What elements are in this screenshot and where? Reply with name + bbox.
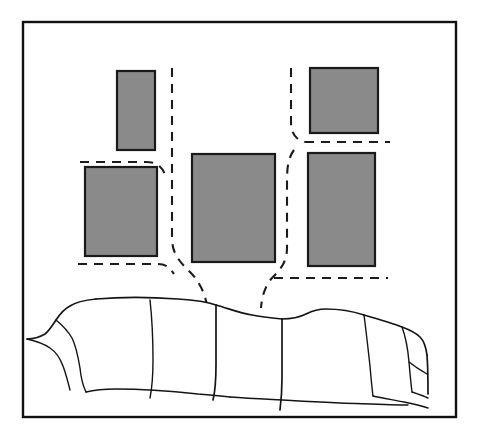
- artwork-upper-left[interactable]: [117, 71, 155, 150]
- artwork-center[interactable]: [192, 154, 275, 262]
- picture-wall-illustration: [0, 0, 478, 440]
- artwork-lower-left[interactable]: [85, 167, 157, 256]
- illustration-canvas: [0, 0, 478, 440]
- artwork-upper-right[interactable]: [310, 68, 378, 133]
- artwork-lower-right[interactable]: [308, 153, 375, 266]
